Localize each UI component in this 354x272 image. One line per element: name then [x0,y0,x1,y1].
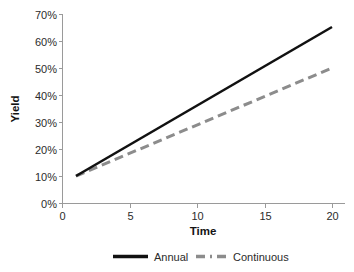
chart-figure: 70% 60% 50% 40% 30% 20% 10% 0% 0 5 10 15… [0,0,354,272]
x-tick-label-20: 20 [326,210,338,222]
y-tick-label-60: 60% [35,36,57,48]
chart-svg: 70% 60% 50% 40% 30% 20% 10% 0% 0 5 10 15… [0,0,354,272]
x-tick-label-15: 15 [259,210,271,222]
legend-label-annual: Annual [154,251,188,263]
y-tick-label-70: 70% [35,9,57,21]
legend-label-continuous: Continuous [233,251,289,263]
y-tick-label-40: 40% [35,90,57,102]
y-axis-title: Yield [9,95,21,122]
y-tick-label-20: 20% [35,144,57,156]
x-tick-label-5: 5 [127,210,133,222]
y-tick-label-30: 30% [35,117,57,129]
x-axis-title: Time [190,225,217,237]
x-tick-label-0: 0 [59,210,65,222]
y-tick-label-50: 50% [35,63,57,75]
y-tick-label-0: 0% [41,198,57,210]
y-tick-label-10: 10% [35,171,57,183]
x-tick-label-10: 10 [191,210,203,222]
